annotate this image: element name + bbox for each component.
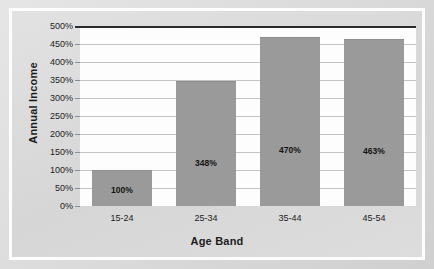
x-axis-line (75, 26, 416, 28)
y-tick-mark (75, 134, 80, 135)
category-slot: 15-24 (80, 206, 164, 221)
y-tick-mark (75, 80, 80, 81)
bar-slot: 348% (164, 26, 248, 206)
bar-slot: 470% (248, 26, 332, 206)
y-tick-label: 0% (29, 201, 73, 211)
bar[interactable]: 463% (344, 39, 404, 206)
category-slot: 25-34 (164, 206, 248, 221)
bars-group: 100%348%470%463% (80, 26, 416, 206)
chart-canvas: Annual Income 100%348%470%463% 0%50%100%… (12, 11, 422, 257)
y-tick-label: 250% (29, 111, 73, 121)
y-tick-mark (75, 44, 80, 45)
plot-area: 100%348%470%463% 0%50%100%150%200%250%30… (80, 26, 416, 221)
x-tick-label: 35-44 (248, 213, 332, 223)
bar-slot: 100% (80, 26, 164, 206)
y-tick-mark (75, 170, 80, 171)
y-tick-label: 100% (29, 165, 73, 175)
y-tick-mark (75, 152, 80, 153)
y-tick-mark (75, 62, 80, 63)
y-tick-label: 350% (29, 75, 73, 85)
bar-value-label: 463% (344, 146, 404, 156)
x-axis-title: Age Band (12, 235, 422, 247)
y-tick-label: 300% (29, 93, 73, 103)
chart-screenshot: Annual Income 100%348%470%463% 0%50%100%… (0, 0, 434, 269)
y-tick-label: 150% (29, 147, 73, 157)
bar-slot: 463% (332, 26, 416, 206)
bar-value-label: 100% (92, 185, 152, 195)
bar[interactable]: 470% (260, 37, 320, 206)
y-tick-mark (75, 188, 80, 189)
y-tick-label: 200% (29, 129, 73, 139)
chart-frame: Annual Income 100%348%470%463% 0%50%100%… (9, 8, 425, 260)
y-tick-mark (75, 116, 80, 117)
x-tick-label: 25-34 (164, 213, 248, 223)
y-tick-label: 50% (29, 183, 73, 193)
x-tick-label: 45-54 (332, 213, 416, 223)
y-tick-label: 500% (29, 21, 73, 31)
category-slot: 45-54 (332, 206, 416, 221)
bar[interactable]: 100% (92, 170, 152, 206)
bar[interactable]: 348% (176, 81, 236, 206)
x-tick-label: 15-24 (80, 213, 164, 223)
bar-value-label: 348% (176, 158, 236, 168)
y-tick-label: 450% (29, 39, 73, 49)
y-tick-label: 400% (29, 57, 73, 67)
y-tick-mark (75, 98, 80, 99)
category-slot: 35-44 (248, 206, 332, 221)
bar-value-label: 470% (260, 145, 320, 155)
